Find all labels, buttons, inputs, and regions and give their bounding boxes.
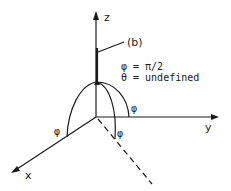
z-axis-label: z <box>104 11 110 24</box>
y-axis-arrowhead <box>211 114 219 120</box>
phi-equation: φ = π/2 <box>121 61 163 72</box>
phi-label-dashed-arc: φ <box>117 128 123 139</box>
theta-equation: θ = undefined <box>121 72 199 83</box>
phi-arc-x <box>67 82 97 137</box>
z-axis-arrowhead <box>93 11 99 20</box>
phi-label-y-arc: φ <box>131 103 137 114</box>
projection-dashed-line <box>98 119 152 184</box>
vector-b-leader-line <box>98 42 124 52</box>
x-axis-arrowhead <box>11 166 20 173</box>
phi-label-x-arc: φ <box>54 126 60 137</box>
phi-arc-dashed <box>97 82 115 139</box>
x-axis-label: x <box>25 169 32 182</box>
spherical-coordinates-diagram: z (b) φ = π/2 θ = undefined y x φ φ φ <box>0 0 231 191</box>
phi-arc-y <box>97 82 129 117</box>
vector-b-label: (b) <box>127 36 143 49</box>
y-axis-label: y <box>205 121 212 134</box>
